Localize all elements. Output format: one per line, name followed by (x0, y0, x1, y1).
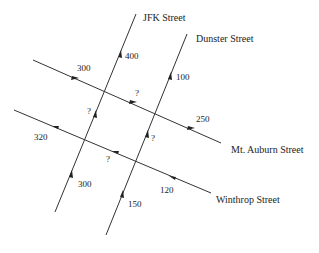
flow-label-jfk-top: 400 (125, 51, 139, 61)
winthrop-street-label: Winthrop Street (216, 194, 280, 205)
flow-label-mt-auburn-left: 300 (77, 63, 91, 73)
flow-label-jfk-bottom: 300 (78, 179, 92, 189)
flow-label-mt-auburn-mid: ? (135, 88, 139, 98)
arrow-icon-winthrop-mid (112, 151, 119, 154)
flow-label-dunster-mid: ? (151, 133, 155, 143)
dunster-street-label: Dunster Street (196, 33, 254, 44)
mt-auburn-street-label: Mt. Auburn Street (231, 144, 304, 155)
winthrop-street-line (14, 110, 211, 193)
jfk-street-label: JFK Street (143, 12, 186, 23)
flow-label-mt-auburn-right: 250 (196, 114, 210, 124)
arrow-icon-mt-auburn-mid (129, 100, 137, 104)
mt-auburn-street-line (33, 60, 221, 143)
flow-label-winthrop-right: 120 (160, 185, 174, 195)
flow-label-winthrop-left: 320 (34, 132, 48, 142)
traffic-network-diagram: JFK Street Dunster Street Mt. Auburn Str… (0, 0, 319, 253)
flow-label-winthrop-mid: ? (106, 154, 110, 164)
arrow-icon-jfk-bottom (69, 170, 73, 178)
flow-label-jfk-mid: ? (87, 106, 91, 116)
flow-label-dunster-bottom: 150 (128, 199, 142, 209)
flow-label-dunster-top: 100 (176, 72, 190, 82)
arrow-icon-winthrop-left (52, 126, 59, 129)
arrow-icon-dunster-mid (145, 130, 149, 138)
arrow-icon-winthrop-right (169, 176, 176, 180)
